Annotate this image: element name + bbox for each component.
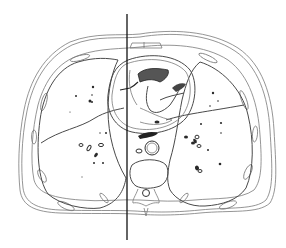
spinal-canal <box>143 190 150 197</box>
pulmonary-vessels-left <box>184 92 222 173</box>
body-wall-outer-contour <box>19 31 276 215</box>
descending-aorta <box>145 141 159 155</box>
pulmonary-vessels-right <box>69 86 107 178</box>
right-lung <box>38 58 126 208</box>
vertebral-body <box>130 160 168 189</box>
heart-chambers-valves <box>120 69 186 125</box>
azygos-vein <box>136 149 142 153</box>
body-wall-inner-contour <box>32 45 261 201</box>
left-lung-fissure <box>166 105 244 120</box>
heart-pericardium <box>108 56 195 134</box>
right-lung-fissure <box>41 108 124 143</box>
left-lung <box>166 62 252 206</box>
thorax-cross-section-drawing <box>0 0 286 248</box>
cross-section-figure <box>0 0 286 248</box>
